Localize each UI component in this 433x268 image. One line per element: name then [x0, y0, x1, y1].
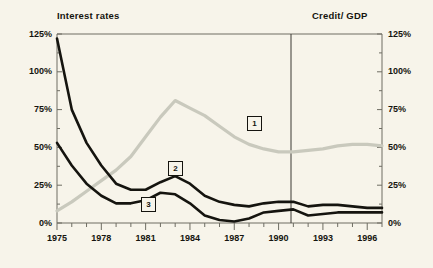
x-tick-label: 1975 [37, 233, 77, 243]
series-label-1: 1 [247, 116, 262, 131]
x-tick-label: 1984 [170, 233, 210, 243]
x-tick-label: 1978 [81, 233, 121, 243]
series-label-2: 2 [168, 161, 183, 176]
y-right-tick-label: 100% [388, 66, 428, 76]
y-right-tick-label: 75% [388, 104, 428, 114]
y-left-tick-label: 0% [16, 218, 52, 228]
y-left-tick-label: 125% [16, 29, 52, 39]
x-tick-label: 1987 [214, 233, 254, 243]
y-left-tick-label: 50% [16, 142, 52, 152]
y-right-tick-label: 50% [388, 142, 428, 152]
x-tick-label: 1990 [259, 233, 299, 243]
y-left-tick-label: 75% [16, 104, 52, 114]
plot-area [0, 0, 433, 268]
x-tick-label: 1981 [126, 233, 166, 243]
y-right-tick-label: 25% [388, 180, 428, 190]
plot-background [57, 34, 382, 223]
chart-container: Interest rates Credit/ GDP 125%100%75%50… [0, 0, 433, 268]
series-label-3: 3 [141, 197, 156, 212]
y-left-tick-label: 25% [16, 180, 52, 190]
x-tick-label: 1996 [347, 233, 387, 243]
y-right-tick-label: 0% [388, 218, 428, 228]
x-tick-label: 1993 [303, 233, 343, 243]
y-right-tick-label: 125% [388, 29, 428, 39]
y-left-tick-label: 100% [16, 66, 52, 76]
